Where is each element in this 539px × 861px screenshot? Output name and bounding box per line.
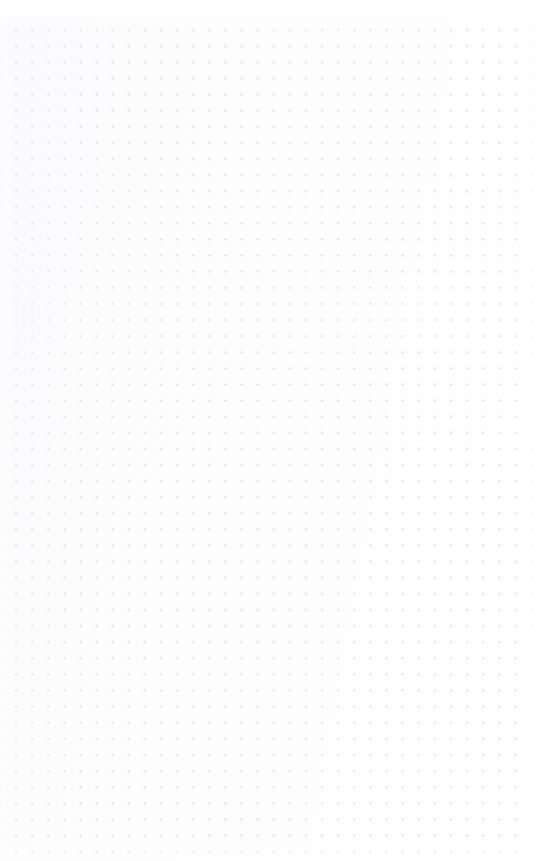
writing-area[interactable] xyxy=(8,22,530,861)
dot-grid-page xyxy=(0,0,539,861)
right-margin-strip xyxy=(530,0,539,861)
top-margin-strip xyxy=(0,0,539,15)
writing-area-content xyxy=(7,21,8,22)
